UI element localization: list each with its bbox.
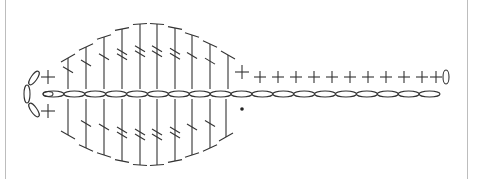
chain-stitch-icon [315,91,336,97]
chain-stitch-icon [168,91,189,97]
chain-stitch-icon [64,91,85,97]
chain-stitch-icon [85,91,106,97]
chain-stitch-icon [106,91,127,97]
chain-stitch-icon [27,70,41,87]
chain-stitch-icon [443,70,449,84]
chain-stitch-icon [127,91,148,97]
crochet-chart [0,0,478,179]
stitch-top-bar [133,24,147,25]
chain-stitch-icon [419,91,440,97]
slip-stitch-dot-icon [240,107,244,111]
stitch-top-bar [150,24,164,25]
chain-stitch-icon [252,91,273,97]
chain-stitch-icon [231,91,252,97]
stitch-bottom-bar [133,165,147,166]
chain-stitch-icon [147,91,168,97]
chain-stitch-icon [189,91,210,97]
chain-stitch-icon [336,91,357,97]
diagram-frame [0,0,478,179]
chain-stitch-icon [24,85,30,103]
chain-stitch-icon [294,91,315,97]
stitch-bottom-bar [150,165,164,166]
chain-stitch-icon [43,92,53,97]
chain-stitch-icon [27,102,41,119]
chain-stitch-icon [210,91,231,97]
chain-stitch-icon [377,91,398,97]
chain-stitch-icon [398,91,419,97]
chain-stitch-icon [356,91,377,97]
chain-stitch-icon [273,91,294,97]
